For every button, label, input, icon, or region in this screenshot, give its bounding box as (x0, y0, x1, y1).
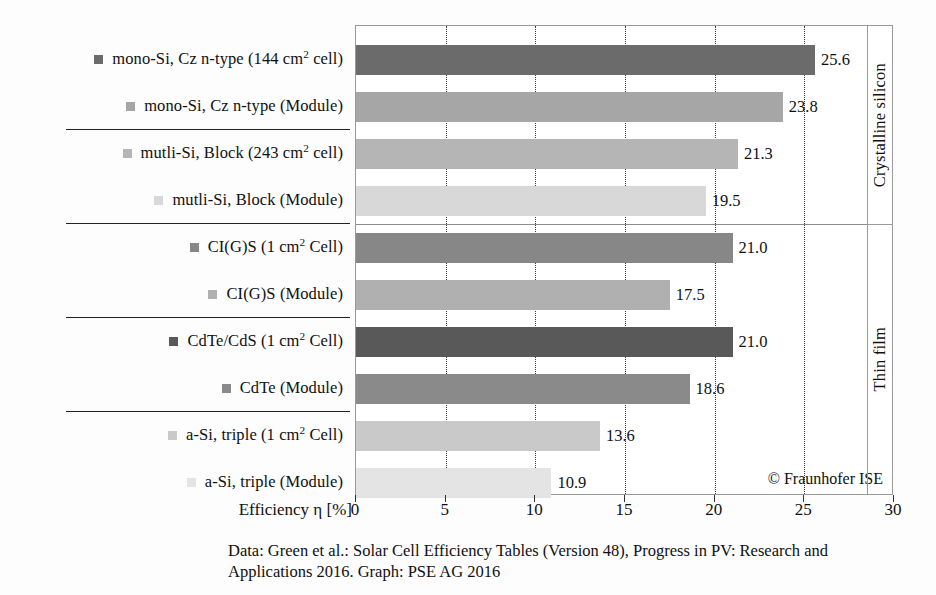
caption-line-2: Applications 2016. Graph: PSE AG 2016 (228, 561, 928, 582)
label-group-divider (66, 223, 350, 224)
bar (356, 92, 783, 122)
bar (356, 374, 690, 404)
legend-swatch-icon (208, 290, 217, 299)
category-label: mono-Si, Cz n-type (Module) (144, 97, 343, 115)
bar (356, 45, 815, 75)
legend-swatch-icon (154, 196, 163, 205)
bar-value-label: 13.6 (606, 421, 635, 451)
group-label-thin-film: Thin film (868, 224, 892, 494)
group-label-crystalline-silicon-text: Crystalline silicon (870, 63, 890, 187)
axis-tick-label: 5 (440, 500, 449, 520)
plot-area: 25.623.821.319.521.017.521.018.613.610.9… (355, 25, 893, 495)
legend-swatch-icon (94, 55, 103, 64)
figure-caption: Data: Green et al.: Solar Cell Efficienc… (228, 540, 928, 582)
legend-swatch-icon (222, 384, 231, 393)
group-side-panel: Crystalline silicon Thin film (867, 25, 893, 495)
category-row: mutli-Si, Block (243 cm2 cell) (0, 138, 348, 168)
section-divider-line (356, 224, 893, 225)
label-group-divider (66, 129, 350, 130)
category-label: CI(G)S (1 cm2 Cell) (208, 238, 343, 256)
bar (356, 186, 706, 216)
bar-value-label: 21.0 (739, 233, 768, 263)
bar-value-label: 25.6 (821, 45, 850, 75)
bar-value-label: 17.5 (676, 280, 705, 310)
category-label-column: mono-Si, Cz n-type (144 cm2 cell)mono-Si… (0, 25, 355, 495)
category-row: mono-Si, Cz n-type (144 cm2 cell) (0, 44, 348, 74)
group-label-thin-film-text: Thin film (870, 327, 890, 392)
x-axis-title: Efficiency η [%] (0, 500, 352, 520)
caption-line-1: Data: Green et al.: Solar Cell Efficienc… (228, 540, 928, 561)
category-label: CdTe (Module) (240, 379, 343, 397)
bar-value-label: 10.9 (557, 468, 586, 498)
category-row: a-Si, triple (1 cm2 Cell) (0, 420, 348, 450)
legend-swatch-icon (126, 102, 135, 111)
category-label: mutli-Si, Block (243 cm2 cell) (141, 144, 343, 162)
axis-tick-label: 30 (885, 500, 902, 520)
category-label: mutli-Si, Block (Module) (172, 191, 343, 209)
category-row: CdTe (Module) (0, 373, 348, 403)
category-row: a-Si, triple (Module) (0, 467, 348, 497)
bar-value-label: 19.5 (712, 186, 741, 216)
category-row: mono-Si, Cz n-type (Module) (0, 91, 348, 121)
category-row: CdTe/CdS (1 cm2 Cell) (0, 326, 348, 356)
label-group-divider (66, 317, 350, 318)
axis-tick-label: 0 (351, 500, 360, 520)
category-label: a-Si, triple (1 cm2 Cell) (186, 426, 343, 444)
bar-value-label: 18.6 (696, 374, 725, 404)
axis-tick-label: 20 (705, 500, 722, 520)
copyright-credit: © Fraunhofer ISE (768, 470, 883, 488)
bar (356, 280, 670, 310)
bar (356, 468, 551, 498)
bar (356, 139, 738, 169)
bar (356, 233, 733, 263)
category-label: CdTe/CdS (1 cm2 Cell) (187, 332, 343, 350)
bar-value-label: 21.3 (744, 139, 773, 169)
legend-swatch-icon (168, 431, 177, 440)
bar (356, 421, 600, 451)
category-label: CI(G)S (Module) (226, 285, 343, 303)
axis-tick-label: 10 (526, 500, 543, 520)
legend-swatch-icon (190, 243, 199, 252)
category-row: mutli-Si, Block (Module) (0, 185, 348, 215)
chart-page: mono-Si, Cz n-type (144 cm2 cell)mono-Si… (0, 0, 936, 595)
bar (356, 327, 733, 357)
axis-tick-label: 25 (795, 500, 812, 520)
category-label: a-Si, triple (Module) (205, 473, 343, 491)
legend-swatch-icon (169, 337, 178, 346)
label-group-divider (66, 411, 350, 412)
category-row: CI(G)S (Module) (0, 279, 348, 309)
category-row: CI(G)S (1 cm2 Cell) (0, 232, 348, 262)
group-label-crystalline-silicon: Crystalline silicon (868, 26, 892, 224)
axis-tick-label: 15 (616, 500, 633, 520)
bar-value-label: 23.8 (789, 92, 818, 122)
legend-swatch-icon (187, 478, 196, 487)
bar-value-label: 21.0 (739, 327, 768, 357)
legend-swatch-icon (123, 149, 132, 158)
category-label: mono-Si, Cz n-type (144 cm2 cell) (112, 50, 343, 68)
